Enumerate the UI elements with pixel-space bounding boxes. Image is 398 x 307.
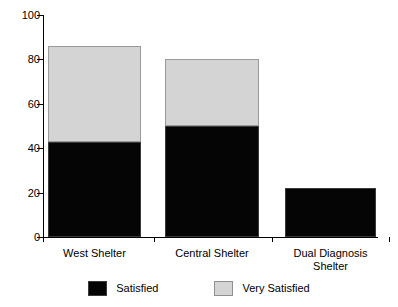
bar-segment-very-satisfied[interactable]: [165, 59, 259, 126]
y-axis-tick-label: 100: [22, 10, 40, 21]
bar-segment-satisfied[interactable]: [285, 188, 376, 237]
legend-swatch-gray: [214, 281, 233, 296]
y-axis-tick-label: 40: [28, 143, 40, 154]
y-axis-tick-label: 0: [34, 232, 40, 243]
chart-legend: SatisfiedVery Satisfied: [0, 281, 398, 296]
x-axis-tick-mark: [154, 237, 155, 242]
x-axis-category-label: West Shelter: [35, 247, 155, 260]
bar-segment-very-satisfied[interactable]: [48, 46, 141, 141]
legend-label: Satisfied: [116, 283, 158, 294]
x-axis-line: [43, 237, 378, 238]
bar-group[interactable]: [48, 15, 141, 237]
legend-item[interactable]: Satisfied: [88, 281, 158, 296]
legend-label: Very Satisfied: [242, 283, 309, 294]
x-axis-tick-mark: [272, 237, 273, 242]
y-axis-tick-label: 80: [28, 54, 40, 65]
bar-segment-satisfied[interactable]: [48, 142, 141, 237]
stacked-bar-chart: 020406080100 West ShelterCentral Shelter…: [0, 0, 398, 307]
x-axis-tick-mark: [389, 237, 390, 242]
y-axis-tick-label: 60: [28, 98, 40, 109]
legend-swatch-black: [88, 281, 107, 296]
plot-area: 020406080100: [44, 15, 378, 237]
bar-segment-satisfied[interactable]: [165, 126, 259, 237]
x-axis-category-label: Dual Diagnosis Shelter: [271, 247, 391, 273]
y-axis-tick-label: 20: [28, 187, 40, 198]
bar-group[interactable]: [285, 15, 376, 237]
x-axis-category-label: Central Shelter: [152, 247, 272, 260]
bar-group[interactable]: [165, 15, 259, 237]
x-axis-tick-mark: [43, 237, 44, 242]
legend-item[interactable]: Very Satisfied: [214, 281, 309, 296]
